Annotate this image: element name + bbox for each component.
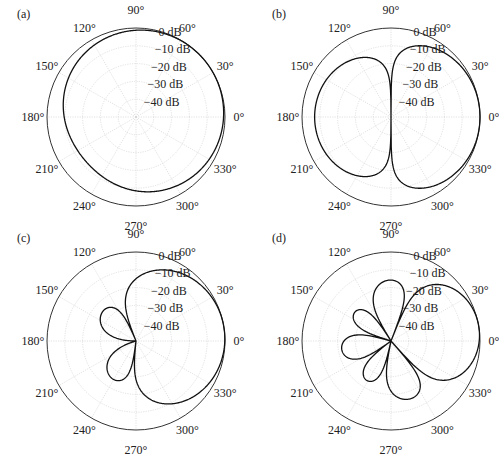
angle-tick-label: 90° bbox=[383, 3, 400, 17]
radial-tick-label: −40 dB bbox=[399, 95, 435, 109]
grid-spoke bbox=[59, 117, 136, 162]
angle-tick-label: 180° bbox=[277, 110, 300, 124]
grid-spoke bbox=[391, 117, 436, 194]
angle-tick-label: 30° bbox=[217, 283, 234, 297]
angle-tick-label: 180° bbox=[277, 334, 300, 348]
polar-figure: 0°30°60°90°120°150°180°210°240°270°300°3… bbox=[0, 0, 499, 456]
grid-spoke bbox=[314, 73, 391, 118]
angle-tick-label: 150° bbox=[290, 283, 313, 297]
angle-tick-label: 0° bbox=[234, 110, 245, 124]
angle-tick-label: 270° bbox=[380, 443, 403, 456]
angle-tick-label: 210° bbox=[290, 162, 313, 176]
angle-tick-label: 240° bbox=[73, 423, 96, 437]
angle-tick-label: 240° bbox=[73, 199, 96, 213]
angle-tick-label: 300° bbox=[431, 423, 454, 437]
radial-tick-label: −20 dB bbox=[151, 284, 187, 298]
angle-tick-label: 0° bbox=[489, 110, 499, 124]
angle-tick-label: 300° bbox=[431, 199, 454, 213]
grid-spoke bbox=[92, 40, 137, 117]
angle-tick-label: 300° bbox=[176, 199, 199, 213]
angle-tick-label: 120° bbox=[73, 21, 96, 35]
angle-tick-label: 210° bbox=[290, 386, 313, 400]
polar-panel-b: 0°30°60°90°120°150°180°210°240°270°300°3… bbox=[272, 3, 499, 233]
panel-label: (d) bbox=[272, 231, 286, 245]
radial-tick-label: 0 dB bbox=[414, 25, 437, 39]
radial-tick-label: −30 dB bbox=[147, 301, 183, 315]
angle-tick-label: 330° bbox=[469, 162, 492, 176]
angle-tick-label: 330° bbox=[469, 386, 492, 400]
angle-tick-label: 60° bbox=[434, 21, 451, 35]
angle-tick-label: 240° bbox=[328, 423, 351, 437]
polar-panel-a: 0°30°60°90°120°150°180°210°240°270°300°3… bbox=[17, 3, 245, 233]
angle-tick-label: 150° bbox=[290, 59, 313, 73]
angle-tick-label: 240° bbox=[328, 199, 351, 213]
polar-panel-c: 0°30°60°90°120°150°180°210°240°270°300°3… bbox=[17, 227, 245, 456]
angle-tick-label: 120° bbox=[328, 21, 351, 35]
grid-spoke bbox=[92, 264, 137, 341]
angle-tick-label: 30° bbox=[217, 59, 234, 73]
grid-spoke bbox=[136, 341, 213, 386]
grid-spoke bbox=[136, 341, 181, 418]
radial-tick-label: −30 dB bbox=[402, 301, 438, 315]
radial-tick-label: 0 dB bbox=[414, 249, 437, 263]
radial-tick-label: −20 dB bbox=[406, 284, 442, 298]
angle-tick-label: 60° bbox=[179, 21, 196, 35]
angle-tick-label: 210° bbox=[35, 386, 58, 400]
grid-spoke bbox=[391, 117, 468, 162]
grid-spoke bbox=[391, 341, 468, 386]
angle-tick-label: 300° bbox=[176, 423, 199, 437]
radial-tick-label: −10 dB bbox=[155, 42, 191, 56]
radial-tick-label: 0 dB bbox=[159, 25, 182, 39]
radial-tick-label: −30 dB bbox=[402, 77, 438, 91]
grid-spoke bbox=[136, 117, 181, 194]
radial-tick-label: −10 dB bbox=[155, 266, 191, 280]
angle-tick-label: 150° bbox=[35, 283, 58, 297]
angle-tick-label: 90° bbox=[128, 227, 145, 241]
angle-tick-label: 0° bbox=[489, 334, 499, 348]
angle-tick-label: 330° bbox=[214, 386, 237, 400]
radial-tick-label: −30 dB bbox=[147, 77, 183, 91]
polar-panel-d: 0°30°60°90°120°150°180°210°240°270°300°3… bbox=[272, 227, 499, 456]
radial-tick-label: 0 dB bbox=[159, 249, 182, 263]
angle-tick-label: 60° bbox=[434, 245, 451, 259]
grid-spoke bbox=[347, 341, 392, 418]
radial-tick-label: −10 dB bbox=[410, 42, 446, 56]
grid-spoke bbox=[347, 40, 392, 117]
grid-spoke bbox=[92, 117, 137, 194]
radial-tick-label: −40 dB bbox=[144, 95, 180, 109]
angle-tick-label: 180° bbox=[22, 334, 45, 348]
angle-tick-label: 330° bbox=[214, 162, 237, 176]
angle-tick-label: 180° bbox=[22, 110, 45, 124]
angle-tick-label: 90° bbox=[383, 227, 400, 241]
pattern-curve bbox=[342, 280, 480, 399]
grid-spoke bbox=[59, 73, 136, 118]
grid-spoke bbox=[391, 341, 436, 418]
panel-label: (a) bbox=[17, 7, 30, 21]
angle-tick-label: 270° bbox=[125, 443, 148, 456]
angle-tick-label: 90° bbox=[128, 3, 145, 17]
grid-spoke bbox=[136, 117, 213, 162]
grid-spoke bbox=[314, 341, 391, 386]
angle-tick-label: 120° bbox=[328, 245, 351, 259]
angle-tick-label: 30° bbox=[472, 59, 489, 73]
grid-spoke bbox=[314, 117, 391, 162]
panel-label: (b) bbox=[272, 7, 286, 21]
angle-tick-label: 150° bbox=[35, 59, 58, 73]
grid-spoke bbox=[59, 297, 136, 342]
angle-tick-label: 120° bbox=[73, 245, 96, 259]
panel-label: (c) bbox=[17, 231, 30, 245]
grid-spoke bbox=[314, 297, 391, 342]
radial-tick-label: −40 dB bbox=[144, 319, 180, 333]
angle-tick-label: 210° bbox=[35, 162, 58, 176]
angle-tick-label: 0° bbox=[234, 334, 245, 348]
radial-tick-label: −40 dB bbox=[399, 319, 435, 333]
angle-tick-label: 30° bbox=[472, 283, 489, 297]
pattern-curve bbox=[63, 30, 223, 192]
radial-tick-label: −10 dB bbox=[410, 266, 446, 280]
radial-tick-label: −20 dB bbox=[151, 60, 187, 74]
angle-tick-label: 60° bbox=[179, 245, 196, 259]
grid-spoke bbox=[347, 117, 392, 194]
radial-tick-label: −20 dB bbox=[406, 60, 442, 74]
